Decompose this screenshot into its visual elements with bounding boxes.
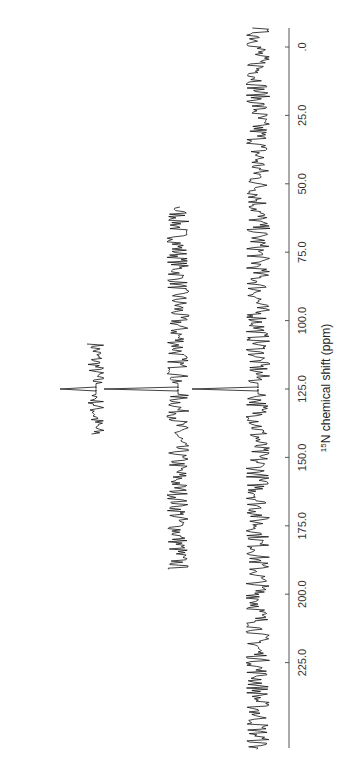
axis-ticks: .025.050.075.0100.0125.0150.0175.0200.02… bbox=[285, 42, 308, 676]
nmr-spectrum-chart: .025.050.075.0100.0125.0150.0175.0200.02… bbox=[0, 0, 346, 770]
tick-label: .0 bbox=[296, 42, 308, 51]
tick-label: 150.0 bbox=[296, 444, 308, 472]
axis-title-text: N chemical shift (ppm) bbox=[319, 324, 333, 443]
tick-label: 100.0 bbox=[296, 307, 308, 335]
spectra-traces bbox=[60, 28, 270, 749]
tick-label: 175.0 bbox=[296, 512, 308, 540]
axis-title: 15N chemical shift (ppm) bbox=[319, 324, 333, 452]
tick-label: 125.0 bbox=[296, 375, 308, 403]
spectrum-trace-2 bbox=[104, 207, 189, 569]
ppm-axis: .025.050.075.0100.0125.0150.0175.0200.02… bbox=[285, 28, 308, 748]
tick-label: 225.0 bbox=[296, 649, 308, 677]
tick-label: 75.0 bbox=[296, 241, 308, 262]
tick-label: 200.0 bbox=[296, 580, 308, 608]
tick-label: 25.0 bbox=[296, 105, 308, 126]
spectrum-trace-1 bbox=[60, 344, 104, 434]
svg-text:15N chemical shift (ppm): 15N chemical shift (ppm) bbox=[319, 324, 333, 452]
spectrum-trace-3 bbox=[192, 28, 270, 749]
tick-label: 50.0 bbox=[296, 173, 308, 194]
